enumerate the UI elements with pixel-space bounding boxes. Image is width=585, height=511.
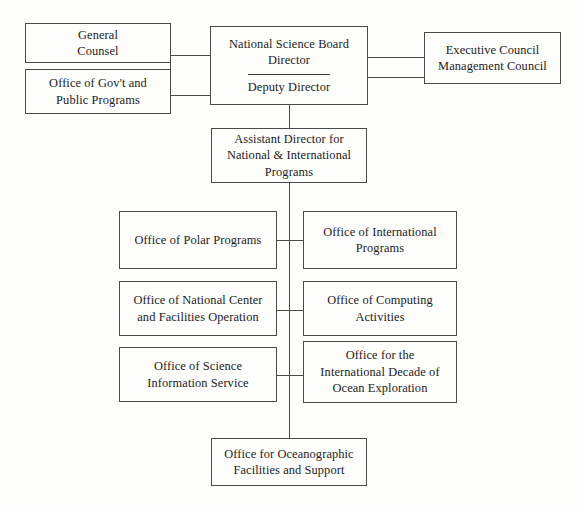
node-gov-public-programs-line2: Public Programs: [56, 92, 140, 108]
node-computing-activities-line2: Activities: [355, 309, 404, 325]
node-science-information-service-line1: Office of Science: [154, 358, 242, 374]
connector-executive-council-upper: [368, 57, 425, 58]
node-assistant-director-line2: National & International: [227, 147, 351, 163]
node-international-programs-line2: Programs: [356, 240, 404, 256]
node-gov-public-programs[interactable]: Office of Gov't and Public Programs: [25, 69, 171, 114]
node-polar-programs-line1: Office of Polar Programs: [134, 232, 261, 248]
node-science-information-service[interactable]: Office of Science Information Service: [119, 347, 277, 402]
node-general-counsel-line1: General: [78, 27, 118, 43]
node-ocean-exploration-line1: Office for the: [346, 347, 415, 363]
node-ocean-exploration-line3: Ocean Exploration: [333, 380, 428, 396]
node-computing-activities-line1: Office of Computing: [327, 292, 433, 308]
connector-general-counsel: [166, 55, 212, 56]
connector-row1-right: [289, 240, 304, 241]
node-science-information-service-line2: Information Service: [147, 375, 248, 391]
node-oceanographic-facilities[interactable]: Office for Oceanographic Facilities and …: [211, 438, 367, 486]
node-director[interactable]: National Science Board Director Deputy D…: [210, 26, 368, 105]
node-oceanographic-facilities-line1: Office for Oceanographic: [224, 446, 353, 462]
node-international-programs-line1: Office of International: [323, 224, 437, 240]
connector-executive-council-lower: [368, 77, 425, 78]
connector-row3-right: [289, 375, 304, 376]
node-national-center-line2: and Facilities Operation: [137, 309, 258, 325]
connector-row2-right: [289, 310, 304, 311]
node-executive-council-line1: Executive Council: [446, 42, 540, 58]
node-gov-public-programs-line1: Office of Gov't and: [49, 75, 147, 91]
node-international-programs[interactable]: Office of International Programs: [303, 211, 457, 269]
connector-director-to-assistant: [289, 104, 290, 130]
node-director-lower: Deputy Director: [211, 77, 367, 101]
node-oceanographic-facilities-line2: Facilities and Support: [234, 462, 345, 478]
node-national-center-line1: Office of National Center: [133, 292, 262, 308]
node-director-line3: Deputy Director: [217, 79, 361, 95]
node-director-divider: [248, 74, 329, 75]
connector-gov-programs: [166, 95, 212, 96]
node-general-counsel[interactable]: General Counsel: [25, 23, 171, 63]
node-ocean-exploration-line2: International Decade of: [320, 364, 439, 380]
node-assistant-director-line1: Assistant Director for: [234, 131, 344, 147]
node-director-line2: Director: [217, 52, 361, 68]
node-polar-programs[interactable]: Office of Polar Programs: [119, 211, 277, 269]
node-general-counsel-line2: Counsel: [77, 43, 118, 59]
node-assistant-director[interactable]: Assistant Director for National & Intern…: [211, 128, 367, 183]
node-director-upper: National Science Board Director: [211, 30, 367, 73]
node-ocean-exploration[interactable]: Office for the International Decade of O…: [303, 341, 457, 403]
node-assistant-director-line3: Programs: [265, 164, 313, 180]
node-executive-council[interactable]: Executive Council Management Council: [424, 32, 561, 84]
org-chart: General Counsel Office of Gov't and Publ…: [0, 0, 585, 511]
node-director-line1: National Science Board: [217, 36, 361, 52]
node-computing-activities[interactable]: Office of Computing Activities: [303, 281, 457, 336]
node-executive-council-line2: Management Council: [438, 58, 547, 74]
node-national-center[interactable]: Office of National Center and Facilities…: [119, 281, 277, 336]
